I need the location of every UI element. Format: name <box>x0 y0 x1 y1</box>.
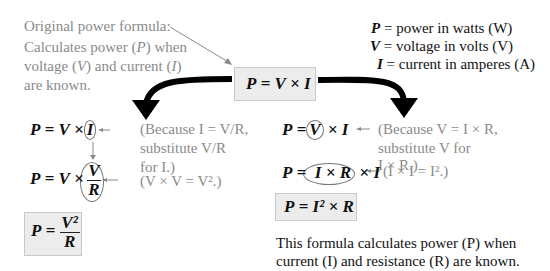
right-step2-note: (I × I = I².) <box>383 162 448 181</box>
right-caption-line2: current (I) and resistance (R) are known… <box>276 252 520 271</box>
intro-line4: are known. <box>24 76 91 95</box>
legend-current: I = current in amperes (A) <box>377 55 535 74</box>
left-step2-equation: P = V ×VR <box>30 162 101 199</box>
right-result-equation: P = I² × R <box>284 197 354 217</box>
intro-line2: Calculates power (P) when <box>24 38 187 57</box>
right-step1-note1: (Because V = I × R, <box>378 120 498 139</box>
left-step2-note: (V × V = V².) <box>140 172 222 191</box>
right-step2-equation: P = I × R × I <box>282 163 380 183</box>
right-caption-line1: This formula calculates power (P) when <box>276 234 516 253</box>
intro-line3: voltage (V) and current (I) <box>24 57 181 76</box>
left-step1-note1: (Because I = V/R, <box>140 120 248 139</box>
left-step1-equation: P = V ×I <box>30 120 96 140</box>
left-step1-note2: substitute V/R <box>140 139 226 158</box>
left-result-equation: P = V²R <box>31 214 80 251</box>
legend-power: P = power in watts (W) <box>371 19 512 38</box>
down-arrow-icon <box>90 155 96 160</box>
right-step1-equation: P =V × I <box>282 120 348 140</box>
legend-voltage: V = voltage in volts (V) <box>370 37 513 56</box>
pointer-arrowhead-icon <box>224 58 232 65</box>
main-formula: P = V × I <box>246 74 311 94</box>
intro-title: Original power formula: <box>24 17 171 36</box>
